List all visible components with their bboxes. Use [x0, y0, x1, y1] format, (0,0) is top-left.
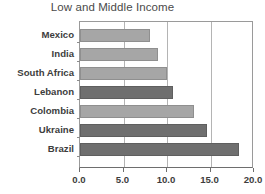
bars-layer [80, 22, 252, 167]
bar-row [80, 121, 254, 140]
y-axis-label-lebanon: Lebanon [0, 82, 74, 101]
x-axis: 0.05.010.015.020.0 [79, 168, 253, 194]
x-axis-tick [210, 168, 211, 172]
y-axis-label-brazil: Brazil [0, 139, 74, 158]
y-axis-tick [77, 61, 80, 62]
bar-row [80, 102, 254, 121]
x-axis-label-15.0: 15.0 [193, 174, 227, 185]
bar-row [80, 64, 254, 83]
y-axis-tick [77, 137, 80, 138]
bar-lebanon [80, 86, 173, 99]
x-axis-tick [123, 168, 124, 172]
bar-ukraine [80, 124, 207, 137]
bar-brazil [80, 143, 239, 156]
bar-chart: Low and Middle Income MexicoIndiaSouth A… [0, 0, 265, 194]
y-axis-label-south-africa: South Africa [0, 63, 74, 82]
bar-row [80, 140, 254, 159]
x-axis-label-0.0: 0.0 [62, 174, 96, 185]
bar-row [80, 26, 254, 45]
y-axis-tick [77, 156, 80, 157]
x-axis-tick [166, 168, 167, 172]
bar-india [80, 48, 158, 61]
y-axis-label-mexico: Mexico [0, 25, 74, 44]
plot-area [79, 21, 253, 168]
bar-row [80, 45, 254, 64]
y-axis-tick [77, 99, 80, 100]
y-axis-label-colombia: Colombia [0, 101, 74, 120]
bar-mexico [80, 29, 150, 42]
chart-title: Low and Middle Income [0, 1, 225, 13]
bar-south-africa [80, 67, 167, 80]
y-axis-tick [77, 80, 80, 81]
x-axis-label-5.0: 5.0 [106, 174, 140, 185]
x-axis-tick [79, 168, 80, 172]
y-axis-tick [77, 118, 80, 119]
bar-colombia [80, 105, 194, 118]
bar-row [80, 83, 254, 102]
y-axis-label-ukraine: Ukraine [0, 120, 74, 139]
y-axis-tick [77, 42, 80, 43]
x-axis-label-10.0: 10.0 [149, 174, 183, 185]
x-axis-label-20.0: 20.0 [236, 174, 265, 185]
y-axis-label-india: India [0, 44, 74, 63]
x-axis-tick [253, 168, 254, 172]
y-axis-labels: MexicoIndiaSouth AfricaLebanonColombiaUk… [0, 21, 74, 168]
